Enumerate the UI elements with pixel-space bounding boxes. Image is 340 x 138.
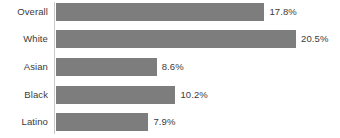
category-label-overall: Overall [0,3,48,21]
bar-latino [56,113,148,131]
plot-area: Overall 17.8% White 20.5% Asian 8.6% Bla… [0,0,340,138]
bar-white [56,30,296,48]
bar-row: Black 10.2% [0,86,340,104]
bar-chart: Overall 17.8% White 20.5% Asian 8.6% Bla… [0,0,340,138]
category-label-white: White [0,30,48,48]
bar-row: White 20.5% [0,30,340,48]
category-label-asian: Asian [0,58,48,76]
bar-asian [56,58,157,76]
value-label-asian: 8.6% [162,58,184,76]
bar-black [56,86,175,104]
value-label-black: 10.2% [180,86,207,104]
bar-row: Asian 8.6% [0,58,340,76]
value-label-overall: 17.8% [269,3,296,21]
value-label-latino: 7.9% [153,113,175,131]
bar-row: Overall 17.8% [0,3,340,21]
bar-row: Latino 7.9% [0,113,340,131]
bar-overall [56,3,264,21]
value-label-white: 20.5% [301,30,328,48]
category-label-black: Black [0,86,48,104]
category-label-latino: Latino [0,113,48,131]
